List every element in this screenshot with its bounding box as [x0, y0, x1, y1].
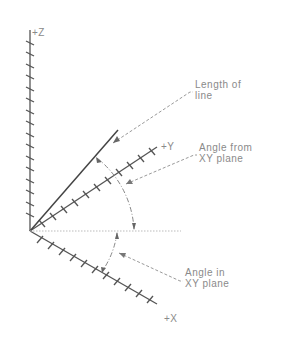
- x-axis: [30, 231, 157, 304]
- length-of-line-line1: Length of: [195, 79, 241, 90]
- 3d-line: [30, 130, 118, 231]
- length-of-line-line2: line: [195, 90, 241, 101]
- y-axis-label: +Y: [161, 141, 175, 152]
- arrowhead-icon: [119, 253, 126, 258]
- angle-from-xy-line1: Angle from: [199, 142, 252, 153]
- arrowhead-icon: [96, 157, 102, 163]
- angle-in-xy-arc: [103, 233, 117, 270]
- length-of-line-label: Length of line: [195, 79, 241, 101]
- coordinate-diagram: [0, 0, 282, 342]
- angle-in-xy-line1: Angle in: [185, 267, 229, 278]
- arrowhead-icon: [113, 136, 120, 143]
- leaders: [113, 92, 197, 281]
- angle-from-xy-arc: [97, 158, 134, 229]
- arrowhead-icon: [132, 223, 136, 230]
- y-axis: [30, 147, 157, 231]
- z-axis-label: +Z: [32, 27, 45, 38]
- angle-in-xy-line2: XY plane: [185, 278, 229, 289]
- x-axis-label: +X: [164, 313, 178, 324]
- angle-in-xy-label: Angle in XY plane: [185, 267, 229, 289]
- arrowhead-icon: [115, 232, 119, 239]
- z-axis: [26, 30, 34, 231]
- angle-from-xy-line2: XY plane: [199, 153, 252, 164]
- angle-from-xy-label: Angle from XY plane: [199, 142, 252, 164]
